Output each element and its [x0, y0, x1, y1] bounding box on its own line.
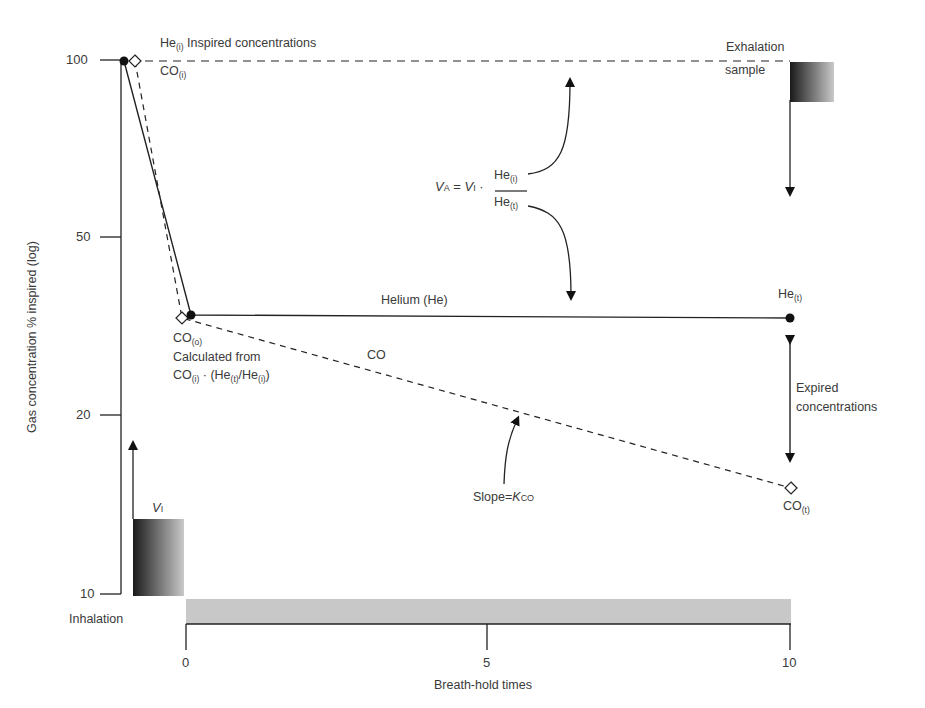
- formula-arrow-up: [528, 82, 570, 174]
- formula-arrow-down: [528, 206, 571, 296]
- co-inspired-label: CO(i): [160, 64, 186, 81]
- he-t-marker: [786, 314, 795, 323]
- co-label: CO: [367, 348, 386, 362]
- exhalation-sample-bar: [790, 62, 834, 102]
- fraction-numerator: He(i): [494, 168, 518, 185]
- co-t-label: CO(t): [783, 499, 810, 516]
- calculated-from-label: Calculated from: [173, 350, 261, 364]
- y-tick-100: 100: [66, 52, 88, 67]
- y-tick-50: 50: [76, 229, 90, 244]
- he-t-label: He(t): [778, 287, 802, 304]
- diagram-canvas: [0, 0, 925, 708]
- co-line: [135, 61, 791, 488]
- x-axis: [186, 599, 791, 650]
- x-tick-10: 10: [782, 655, 796, 670]
- y-tick-20: 20: [76, 407, 90, 422]
- he-inspired-marker: [120, 57, 129, 66]
- co-t-marker: [785, 482, 797, 494]
- slope-label: Slope=KCO: [473, 490, 534, 504]
- breath-hold-bar: [186, 599, 791, 624]
- expired-label-1: Expired: [796, 381, 838, 395]
- fraction-denominator: He(t): [494, 195, 518, 212]
- x-tick-5: 5: [483, 655, 490, 670]
- exhalation-label: Exhalation: [726, 40, 784, 54]
- y-tick-10: 10: [80, 586, 94, 601]
- va-formula: VA = VI ·: [435, 180, 484, 195]
- co-zero-marker: [176, 312, 188, 324]
- inhalation-volume-bar: [133, 519, 184, 596]
- he-inspired-label: He(i) Inspired concentrations: [160, 36, 316, 53]
- slope-arrow: [504, 420, 517, 484]
- co-inspired-marker: [129, 55, 141, 67]
- co-zero-label: CO(o): [173, 331, 202, 348]
- he-zero-marker: [187, 311, 196, 320]
- expired-label-2: concentrations: [796, 400, 877, 414]
- x-tick-0: 0: [182, 655, 189, 670]
- helium-label: Helium (He): [381, 293, 448, 307]
- x-axis-label: Breath-hold times: [434, 678, 532, 692]
- vi-label: VI: [152, 501, 163, 516]
- sample-label: sample: [725, 63, 765, 77]
- y-axis: [100, 60, 121, 594]
- inhalation-label: Inhalation: [69, 612, 123, 626]
- calculated-formula: CO(i) · (He(t)/He(i)): [173, 368, 270, 385]
- y-axis-label: Gas concentration % inspired (log): [25, 227, 39, 447]
